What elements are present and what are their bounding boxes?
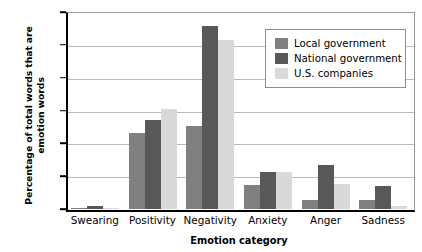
- bar: [318, 165, 334, 209]
- x-axis-tick-label: Anger: [297, 214, 355, 226]
- bar: [244, 185, 260, 209]
- bar: [391, 206, 407, 209]
- chart-legend: Local governmentNational governmentU.S. …: [265, 29, 406, 88]
- bar-chart-figure: Percentage of total words that are emoti…: [0, 0, 422, 252]
- bar: [359, 200, 375, 209]
- legend-swatch-icon: [275, 38, 288, 49]
- bar: [87, 206, 103, 209]
- bar: [186, 126, 202, 209]
- legend-item-label: National government: [294, 53, 402, 64]
- bar: [302, 200, 318, 209]
- bar: [218, 40, 234, 209]
- bar: [161, 109, 177, 209]
- legend-item-label: Local government: [294, 38, 386, 49]
- bar: [260, 172, 276, 209]
- legend-swatch-icon: [275, 68, 288, 79]
- bar: [129, 133, 145, 209]
- bar-group: [124, 12, 182, 209]
- bar: [334, 184, 350, 209]
- x-axis-tick-label: Swearing: [66, 214, 124, 226]
- x-axis-title: Emotion category: [66, 235, 412, 246]
- legend-item: U.S. companies: [275, 66, 397, 81]
- bar: [71, 208, 87, 209]
- x-axis-tick-labels: SwearingPositivityNegativityAnxietyAnger…: [66, 214, 412, 226]
- bar: [276, 172, 292, 209]
- legend-item-label: U.S. companies: [294, 68, 373, 79]
- bar: [145, 120, 161, 209]
- bar-group: [181, 12, 239, 209]
- x-axis-tick-label: Negativity: [181, 214, 239, 226]
- x-axis-tick-label: Positivity: [124, 214, 182, 226]
- bar: [375, 186, 391, 209]
- legend-swatch-icon: [275, 53, 288, 64]
- legend-item: Local government: [275, 36, 397, 51]
- x-axis-tick-label: Sadness: [354, 214, 412, 226]
- bar: [202, 26, 218, 209]
- bar-group: [66, 12, 124, 209]
- x-axis-tick-label: Anxiety: [239, 214, 297, 226]
- legend-item: National government: [275, 51, 397, 66]
- bar: [103, 208, 119, 209]
